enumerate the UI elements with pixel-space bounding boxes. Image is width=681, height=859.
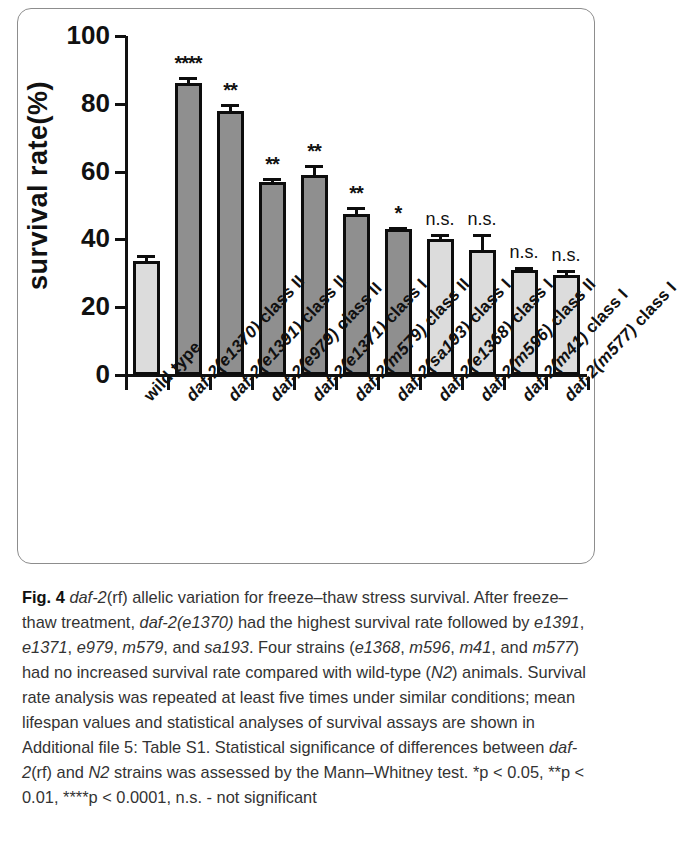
x-axis-labels: wild typedaf-2(e1370) class IIdaf-2(e139… <box>0 392 611 567</box>
significance-label: ** <box>284 141 344 161</box>
caption-run: daf-2(e1370) <box>140 613 234 631</box>
error-bar-cap <box>305 165 323 168</box>
caption-run: Fig. 4 <box>22 588 65 606</box>
caption-run: N2 <box>89 763 110 781</box>
caption-run: , and <box>163 638 204 656</box>
error-bar-cap <box>179 77 197 80</box>
caption-run: . Four strains ( <box>249 638 355 656</box>
y-tick-label-100: 100 <box>40 22 110 48</box>
caption-run: e1368 <box>355 638 401 656</box>
caption-run: e1371 <box>22 638 68 656</box>
y-tick-label-20: 20 <box>40 293 110 319</box>
caption-run: , and <box>491 638 532 656</box>
significance-label: n.s. <box>536 246 596 264</box>
caption-run: had the highest survival rate followed b… <box>233 613 534 631</box>
caption-run: , <box>400 638 409 656</box>
error-bar-cap <box>347 207 365 210</box>
bar-chart: survival rate(%) 020406080100 **********… <box>0 0 611 570</box>
error-bar-cap <box>473 234 491 237</box>
x-tick-0 <box>125 377 128 390</box>
caption-run: sa193 <box>204 638 249 656</box>
significance-label: n.s. <box>452 210 512 228</box>
caption-run: e979 <box>77 638 113 656</box>
caption-run: e1391 <box>534 613 580 631</box>
y-tick-label-60: 60 <box>40 158 110 184</box>
y-tick-label-40: 40 <box>40 225 110 251</box>
error-bar-cap <box>389 227 407 230</box>
error-bar-cap <box>515 267 533 270</box>
y-tick-label-80: 80 <box>40 90 110 116</box>
error-bar-cap <box>221 104 239 107</box>
caption-run: (rf) and <box>31 763 88 781</box>
significance-label: ** <box>200 80 260 100</box>
caption-run: daf-2 <box>69 588 106 606</box>
bar <box>175 83 202 375</box>
y-tick-label-0: 0 <box>40 361 110 387</box>
caption-run: , <box>113 638 122 656</box>
error-bar-cap <box>431 234 449 237</box>
figure-caption: Fig. 4 daf-2(rf) allelic variation for f… <box>22 585 592 809</box>
caption-run: , <box>68 638 77 656</box>
caption-run: m577 <box>532 638 573 656</box>
caption-run: , <box>580 613 585 631</box>
caption-run: m579 <box>122 638 163 656</box>
bar <box>133 261 160 375</box>
caption-run: m41 <box>459 638 491 656</box>
error-bar-cap <box>137 255 155 258</box>
error-bar-cap <box>263 178 281 181</box>
caption-run: N2 <box>431 663 452 681</box>
caption-run: m596 <box>409 638 450 656</box>
significance-label: ** <box>326 183 386 203</box>
error-bar-cap <box>557 270 575 273</box>
significance-label: **** <box>158 53 218 73</box>
